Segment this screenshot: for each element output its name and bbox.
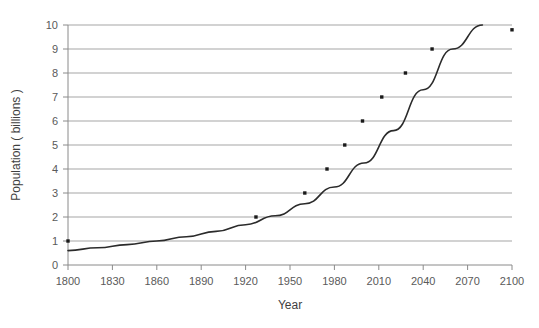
data-point <box>325 167 328 170</box>
data-point <box>404 71 407 74</box>
x-tick-label: 2040 <box>411 275 435 287</box>
y-axis-title: Population ( billions ) <box>9 89 23 200</box>
y-axis-ticks <box>63 25 68 265</box>
y-tick-label: 4 <box>52 163 58 175</box>
population-growth-chart: 012345678910 180018301860189019201950198… <box>0 0 539 328</box>
y-tick-label: 10 <box>46 19 58 31</box>
x-tick-label: 1950 <box>278 275 302 287</box>
x-tick-label: 1830 <box>100 275 124 287</box>
data-point <box>343 143 346 146</box>
data-point <box>303 191 306 194</box>
x-tick-label: 2100 <box>500 275 524 287</box>
y-tick-label: 3 <box>52 187 58 199</box>
data-point <box>254 215 257 218</box>
y-tick-label: 0 <box>52 259 58 271</box>
data-point <box>66 239 69 242</box>
y-tick-label: 5 <box>52 139 58 151</box>
data-point <box>380 95 383 98</box>
x-tick-label: 1980 <box>322 275 346 287</box>
horizontal-gridlines <box>68 25 512 241</box>
x-tick-label: 2070 <box>455 275 479 287</box>
x-tick-label: 2010 <box>367 275 391 287</box>
y-tick-label: 1 <box>52 235 58 247</box>
y-axis-tick-labels: 012345678910 <box>46 19 58 271</box>
chart-canvas: 012345678910 180018301860189019201950198… <box>0 0 539 328</box>
x-tick-label: 1800 <box>56 275 80 287</box>
y-tick-label: 6 <box>52 115 58 127</box>
y-tick-label: 7 <box>52 91 58 103</box>
x-tick-label: 1890 <box>189 275 213 287</box>
data-point <box>430 47 433 50</box>
y-tick-label: 9 <box>52 43 58 55</box>
x-tick-label: 1920 <box>233 275 257 287</box>
data-point <box>510 28 513 31</box>
y-tick-label: 2 <box>52 211 58 223</box>
x-axis-ticks <box>68 265 512 270</box>
y-tick-label: 8 <box>52 67 58 79</box>
x-axis-tick-labels: 1800183018601890192019501980201020402070… <box>56 275 524 287</box>
x-axis-title: Year <box>278 298 302 312</box>
x-tick-label: 1860 <box>145 275 169 287</box>
data-point <box>361 119 364 122</box>
